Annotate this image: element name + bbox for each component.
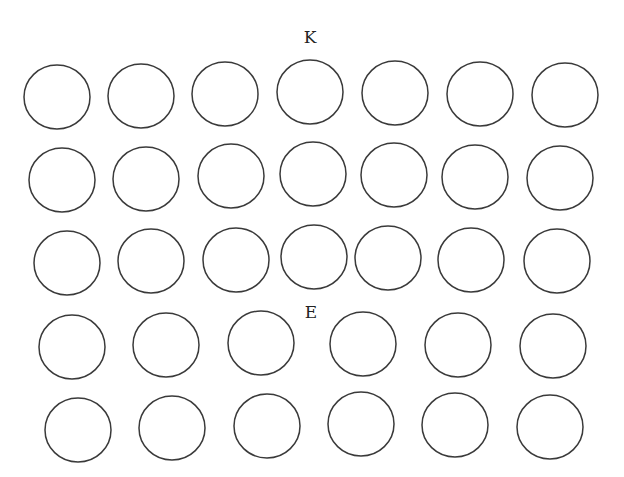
circle-r1-c6 [447, 62, 513, 126]
circle-r2-c1 [29, 148, 95, 212]
circle-r2-c3 [198, 144, 264, 208]
circle-r5-c5 [422, 393, 488, 457]
circle-r4-c1 [39, 315, 105, 379]
circle-r4-c3 [228, 311, 294, 375]
circle-r1-c1 [24, 65, 90, 129]
circle-r3-c5 [355, 226, 421, 290]
circle-r3-c7 [524, 229, 590, 293]
circle-r1-c4 [277, 60, 343, 124]
circle-r4-c4 [330, 312, 396, 376]
circle-r5-c1 [45, 398, 111, 462]
label-k: K [304, 27, 317, 47]
circle-grid-diagram: K E [0, 0, 624, 477]
circle-r2-c2 [113, 147, 179, 211]
circle-rows [24, 60, 598, 462]
row-5 [45, 392, 583, 462]
row-2 [29, 142, 593, 212]
circle-r1-c7 [532, 63, 598, 127]
circle-r3-c3 [203, 228, 269, 292]
circle-r1-c5 [362, 61, 428, 125]
circle-r5-c6 [517, 395, 583, 459]
circle-r4-c5 [425, 313, 491, 377]
circle-r3-c6 [438, 228, 504, 292]
circle-r2-c6 [442, 145, 508, 209]
label-e: E [305, 302, 317, 322]
circle-r5-c3 [234, 394, 300, 458]
circle-r5-c2 [139, 396, 205, 460]
circle-r3-c4 [281, 225, 347, 289]
circle-r2-c7 [527, 146, 593, 210]
row-3 [34, 225, 590, 295]
diagram-canvas: K E [0, 0, 624, 477]
circle-r5-c4 [328, 392, 394, 456]
circle-r3-c1 [34, 231, 100, 295]
circle-r4-c2 [133, 313, 199, 377]
circle-r4-c6 [520, 314, 586, 378]
circle-r2-c5 [361, 143, 427, 207]
row-1 [24, 60, 598, 129]
circle-r2-c4 [280, 142, 346, 206]
circle-r3-c2 [118, 229, 184, 293]
circle-r1-c3 [192, 62, 258, 126]
circle-r1-c2 [108, 64, 174, 128]
